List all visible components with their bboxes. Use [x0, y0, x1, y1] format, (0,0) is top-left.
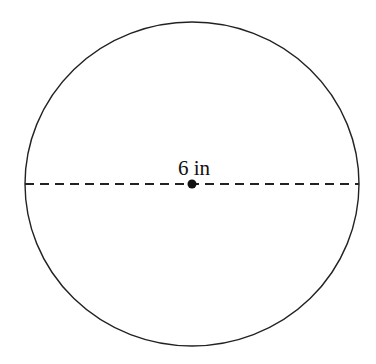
circle-diagram: 6 in [0, 0, 376, 364]
diameter-label: 6 in [178, 156, 211, 180]
center-point [188, 180, 197, 189]
